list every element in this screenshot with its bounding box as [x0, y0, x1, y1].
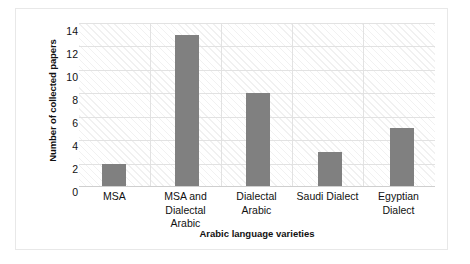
- gridline-horizontal: [79, 70, 435, 71]
- figure-canvas: Number of collected papers 14 12 10 8 6 …: [0, 0, 470, 264]
- y-tick-label: 6: [42, 118, 78, 129]
- bar-dialectal-arabic: [246, 93, 270, 187]
- chart-frame: Number of collected papers 14 12 10 8 6 …: [15, 8, 448, 250]
- x-axis-baseline: [79, 186, 435, 187]
- gridline-horizontal: [79, 46, 435, 47]
- y-tick-label: 4: [42, 141, 78, 152]
- y-tick-label: 8: [42, 95, 78, 106]
- gridline-horizontal: [79, 23, 435, 24]
- y-tick-label: 12: [42, 49, 78, 60]
- x-tick-label-msa: MSA: [79, 190, 150, 204]
- bar-msa: [102, 164, 126, 187]
- bar-msa-and-dialectal-arabic: [175, 35, 199, 187]
- y-tick-label: 10: [42, 72, 78, 83]
- y-tick-label: 14: [42, 26, 78, 37]
- x-tick-label-dialectal-arabic: Dialectal Arabic: [221, 190, 292, 217]
- bar-egyptian-dialect: [390, 128, 414, 187]
- gridline-vertical: [292, 23, 293, 187]
- plot-area: [79, 23, 435, 187]
- gridline-vertical: [150, 23, 151, 187]
- y-tick-label: 2: [42, 164, 78, 175]
- x-tick-label-saudi-dialect: Saudi Dialect: [292, 190, 363, 204]
- x-axis-tick-labels: MSA MSA and Dialectal Arabic Dialectal A…: [79, 190, 435, 226]
- gridline-vertical: [221, 23, 222, 187]
- gridline-vertical: [363, 23, 364, 187]
- x-tick-label-msa-and-dialectal-arabic: MSA and Dialectal Arabic: [150, 190, 221, 231]
- bar-saudi-dialect: [318, 152, 342, 187]
- y-tick-label: 0: [42, 187, 78, 198]
- x-axis-title: Arabic language varieties: [79, 228, 435, 239]
- x-tick-label-egyptian-dialect: Egyptian Dialect: [363, 190, 434, 217]
- y-axis-tick-labels: 14 12 10 8 6 4 2 0: [42, 23, 78, 193]
